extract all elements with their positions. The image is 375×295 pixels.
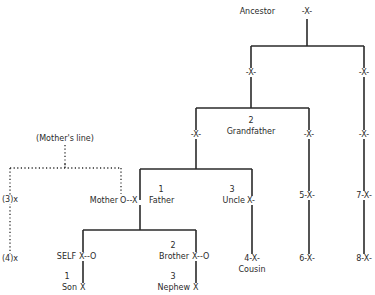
grandfather-label: Grandfather — [226, 127, 277, 136]
uncle-label: Uncle — [222, 196, 246, 205]
mothers-line-label: (Mother's line) — [35, 134, 95, 143]
nephew-number: 3 — [169, 272, 176, 281]
ancestor-marker: -X- — [301, 7, 313, 16]
nephew-marker: X — [192, 283, 199, 292]
relative-8-marker: 8-X- — [355, 254, 373, 263]
grandfather-number: 2 — [247, 116, 254, 125]
son-marker: X — [79, 283, 86, 292]
relative-6-marker: 6-X- — [298, 254, 316, 263]
brother-number: 2 — [169, 241, 176, 250]
son-label: Son — [61, 283, 78, 292]
self-marker: X--O — [78, 252, 97, 261]
uncle-number: 3 — [228, 185, 235, 194]
great-uncle-marker: -X- — [358, 130, 370, 139]
brother-marker: X--O — [191, 252, 210, 261]
cousin-label: Cousin — [237, 265, 266, 274]
grandfather-sibling-marker: -X- — [303, 130, 315, 139]
mother-label: Mother — [89, 196, 119, 205]
son-number: 1 — [63, 272, 70, 281]
level2-left-marker: -X- — [245, 68, 257, 77]
ancestor-label: Ancestor — [239, 7, 276, 16]
relative-7-marker: 7-X- — [355, 191, 373, 200]
brother-label: Brother — [158, 252, 190, 261]
uncle-marker: X- — [246, 196, 256, 205]
maternal-3-marker: (3)x — [1, 195, 19, 204]
relative-5-marker: 5-X- — [298, 191, 316, 200]
father-number: 1 — [157, 185, 164, 194]
father-label: Father — [148, 196, 175, 205]
maternal-4-marker: (4)x — [1, 254, 19, 263]
nephew-label: Nephew — [156, 283, 191, 292]
tree-lines — [0, 0, 375, 295]
cousin-marker: 4-X- — [243, 254, 261, 263]
self-label: SELF — [56, 252, 77, 261]
level2-right-marker: -X- — [358, 68, 370, 77]
grandfather-marker: -X- — [190, 130, 202, 139]
parents-couple-marker: O--X — [119, 196, 138, 205]
